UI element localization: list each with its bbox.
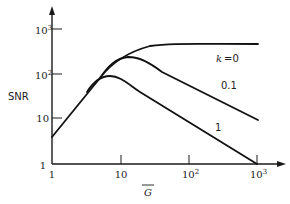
curve-label-k01: 0.1 bbox=[221, 80, 237, 91]
x-axis-arrow-icon bbox=[277, 161, 286, 167]
curve-label-k0: k=0 bbox=[216, 53, 239, 64]
y-tick-label-1: 1 bbox=[40, 160, 46, 171]
x-tick-label-1000: 103 bbox=[250, 168, 267, 180]
x-tick-label-100: 102 bbox=[182, 168, 199, 180]
y-tick-label-100: 102 bbox=[35, 69, 52, 81]
x-ticks bbox=[121, 155, 257, 164]
axes bbox=[52, 12, 280, 164]
y-ticks bbox=[52, 29, 62, 118]
curve-label-k1: 1 bbox=[215, 122, 221, 133]
x-axis-title: G bbox=[144, 187, 152, 198]
y-tick-label-1000: 103 bbox=[35, 24, 52, 36]
y-axis-title: SNR bbox=[8, 91, 29, 102]
snr-vs-gain-chart: 1 10 102 103 1 10 102 103 SNR G k=0 0.1 … bbox=[0, 0, 290, 204]
y-axis-arrow-icon bbox=[49, 6, 55, 15]
x-tick-label-1: 1 bbox=[49, 169, 55, 180]
x-tick-label-10: 10 bbox=[115, 169, 128, 180]
y-tick-label-10: 10 bbox=[36, 113, 49, 124]
